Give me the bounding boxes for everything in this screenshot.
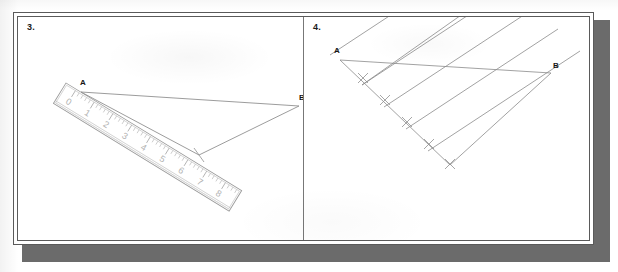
ruler-graphic: 0 1 2 3 4 5 6 7 8 (53, 83, 241, 211)
panel-step-3: 3. (18, 17, 304, 240)
figure-frame-inner: 3. (17, 16, 590, 241)
panel-4-drawing (304, 17, 589, 240)
segment-last-division-to-b (450, 73, 551, 165)
panel-container: 3. (18, 17, 589, 240)
parallel-line (362, 17, 514, 85)
panel-4-label-b: B (553, 61, 559, 70)
division-tick-marks (358, 73, 455, 169)
ray-from-a (340, 60, 450, 165)
division-tick (424, 139, 434, 149)
panel-4-label-a: A (334, 46, 340, 55)
segment-ab (81, 92, 299, 106)
parallel-line (330, 17, 482, 55)
division-tick (445, 159, 455, 169)
parallel-line (406, 29, 558, 129)
scanned-figure-page: 3. (0, 0, 618, 272)
division-tick (402, 117, 412, 127)
panel-4-construction-lines (330, 17, 580, 165)
panel-3-label-a: A (80, 78, 86, 87)
figure-frame-outer: 3. (13, 12, 594, 245)
panel-step-4: 4. (304, 17, 589, 240)
segment-b-to-ray-end (199, 106, 299, 155)
ray-endpoint-tick (194, 148, 204, 162)
panel-3-drawing: 0 1 2 3 4 5 6 7 8 (18, 17, 304, 240)
